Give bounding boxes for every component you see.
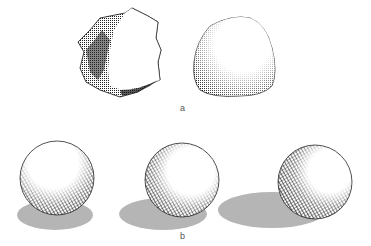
angular-rock (78, 8, 161, 97)
panel-b-label: b (180, 231, 185, 241)
panel-a-label: a (180, 103, 185, 113)
figure-canvas (0, 0, 371, 246)
rounded-rock (194, 17, 275, 96)
sphere-2 (145, 143, 219, 217)
sphere-3 (278, 145, 352, 219)
sphere-1 (20, 141, 94, 215)
